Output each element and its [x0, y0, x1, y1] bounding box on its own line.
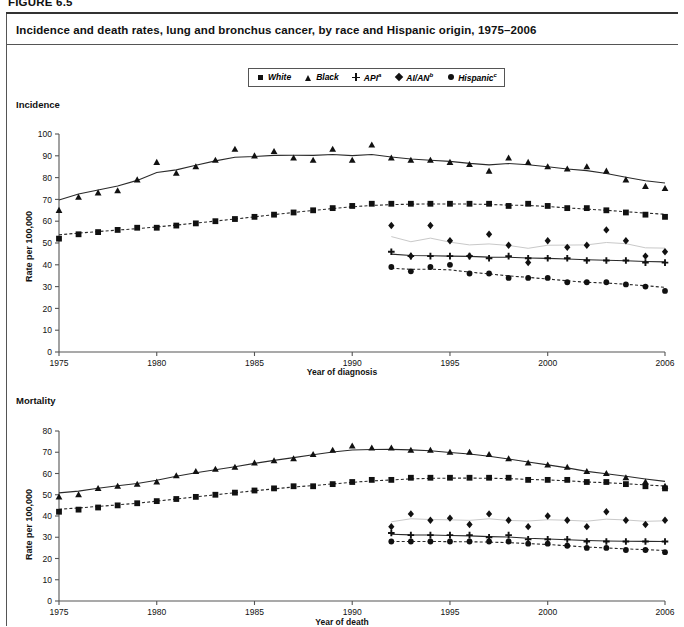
marker-square — [193, 494, 199, 500]
marker-square — [349, 203, 355, 209]
marker-diamond — [388, 523, 394, 530]
marker-circle — [643, 547, 649, 553]
marker-circle — [525, 541, 531, 547]
x-tick-label: 2000 — [538, 358, 557, 368]
marker-diamond — [466, 252, 472, 259]
marker-diamond — [642, 252, 648, 259]
marker-square — [212, 492, 218, 498]
marker-square — [252, 214, 258, 220]
marker-diamond — [486, 510, 492, 517]
marker-square — [232, 216, 238, 222]
marker-plus — [447, 253, 454, 260]
marker-square — [486, 201, 492, 207]
marker-triangle — [271, 148, 278, 154]
marker-triangle — [662, 185, 669, 191]
marker-square — [193, 220, 199, 226]
marker-plus — [466, 532, 473, 539]
marker-diamond — [525, 523, 531, 530]
marker-diamond — [662, 248, 668, 255]
y-tick-label: 0 — [47, 596, 52, 606]
marker-plus — [584, 538, 591, 545]
marker-circle — [662, 288, 668, 294]
y-tick-label: 70 — [43, 447, 53, 457]
marker-circle — [662, 549, 668, 555]
marker-circle — [545, 541, 551, 547]
y-tick-label: 80 — [43, 173, 53, 183]
trend-line-black — [59, 154, 665, 200]
marker-diamond — [447, 514, 453, 521]
marker-plus — [564, 255, 571, 262]
marker-triangle — [486, 451, 493, 457]
marker-circle — [447, 539, 453, 545]
marker-square — [252, 488, 258, 494]
marker-square — [271, 212, 277, 218]
marker-plus — [544, 255, 551, 262]
marker-square — [506, 475, 512, 481]
marker-plus — [662, 538, 669, 545]
marker-triangle — [583, 163, 590, 169]
marker-square — [506, 203, 512, 209]
marker-triangle — [349, 442, 356, 448]
y-tick-label: 50 — [43, 490, 53, 500]
marker-square — [115, 227, 121, 233]
marker-plus — [486, 255, 493, 262]
marker-circle — [408, 268, 414, 274]
y-tick-label: 50 — [43, 238, 53, 248]
y-tick-label: 20 — [43, 554, 53, 564]
x-tick-label: 1980 — [147, 358, 166, 368]
marker-diamond — [584, 241, 590, 248]
marker-plus — [584, 257, 591, 264]
marker-circle — [388, 539, 394, 545]
marker-diamond — [427, 517, 433, 524]
marker-square — [428, 475, 434, 481]
y-tick-label: 10 — [43, 575, 53, 585]
marker-square — [310, 483, 316, 489]
marker-circle — [623, 282, 629, 288]
marker-triangle — [427, 447, 434, 453]
marker-triangle — [349, 157, 356, 163]
y-tick-label: 90 — [43, 151, 53, 161]
chart-incidence: 0102030405060708090100197519801985199019… — [38, 129, 675, 368]
marker-triangle — [623, 474, 630, 480]
marker-circle — [564, 543, 570, 549]
marker-plus — [564, 536, 571, 543]
marker-triangle — [603, 168, 610, 174]
marker-diamond — [545, 512, 551, 519]
marker-square — [467, 201, 473, 207]
y-tick-label: 30 — [43, 282, 53, 292]
marker-square — [545, 477, 551, 483]
marker-circle — [408, 539, 414, 545]
marker-plus — [427, 253, 434, 260]
marker-square — [525, 201, 531, 207]
y-tick-label: 60 — [43, 216, 53, 226]
x-tick-label: 1995 — [441, 358, 460, 368]
marker-square — [173, 223, 179, 229]
y-tick-label: 80 — [43, 426, 53, 436]
marker-triangle — [192, 468, 199, 474]
marker-plus — [642, 538, 649, 545]
trend-line-white — [59, 204, 665, 235]
trend-line-black — [59, 449, 665, 493]
marker-circle — [428, 264, 434, 270]
x-tick-label: 2000 — [538, 607, 557, 617]
x-tick-label: 2006 — [656, 358, 675, 368]
marker-square — [232, 490, 238, 496]
marker-square — [564, 477, 570, 483]
x-tick-label: 1985 — [245, 358, 264, 368]
marker-circle — [584, 545, 590, 551]
y-tick-label: 60 — [43, 469, 53, 479]
marker-circle — [603, 279, 609, 285]
marker-circle — [623, 547, 629, 553]
marker-diamond — [506, 241, 512, 248]
marker-plus — [447, 532, 454, 539]
y-tick-label: 40 — [43, 260, 53, 270]
marker-square — [603, 207, 609, 213]
marker-square — [525, 477, 531, 483]
marker-circle — [564, 279, 570, 285]
marker-plus — [603, 538, 610, 545]
marker-square — [643, 212, 649, 218]
marker-triangle — [466, 449, 473, 455]
y-tick-label: 10 — [43, 325, 53, 335]
marker-circle — [643, 284, 649, 290]
marker-triangle — [153, 159, 160, 165]
